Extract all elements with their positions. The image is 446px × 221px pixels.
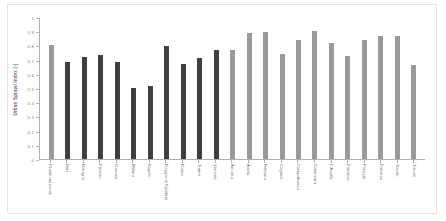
bar [395,36,400,159]
x-tick-slot [108,160,125,163]
x-axis-tick-label: Genova [114,164,119,179]
x-tick-slot [59,160,76,163]
bar-slot [389,18,405,159]
bar-slot [373,18,389,159]
bar-slot [76,18,92,159]
x-tick-slot [174,160,191,163]
x-axis-tick [264,160,265,163]
y-axis-tick-label: 0.2 [28,129,34,134]
x-label-slot: Trento [389,164,406,212]
x-axis-tick [364,160,365,163]
x-label-slot: Bari [59,164,76,212]
x-axis-tick [66,160,67,163]
bar-slot [191,18,207,159]
x-axis-tick-label: Bolzano [262,164,267,180]
x-axis-tick-label: Napoli [147,164,152,176]
x-axis-tick [149,160,150,163]
y-axis-tick-label: 0 [31,158,34,163]
x-label-slot: Venezia [207,164,224,212]
bar-slot [109,18,125,159]
x-axis-tick-label: Bari [64,164,69,172]
x-axis-tick [198,160,199,163]
x-label-slot: Ancona [224,164,241,212]
x-axis-tick [314,160,315,163]
x-tick-slot [42,160,59,163]
y-axis-tick-label: 0.1 [28,143,34,148]
x-axis-tick-label: Firenze [97,164,102,179]
y-axis-tick-label: 0.9 [28,30,34,35]
bar [197,58,202,159]
x-axis-tick [215,160,216,163]
x-tick-slot [240,160,257,163]
bar-slot [224,18,240,159]
x-label-slot: Bolzano [257,164,274,212]
x-axis-tick-label: Roma [180,164,185,176]
bar-slot [59,18,75,159]
x-tick-slot [372,160,389,163]
x-tick-slot [224,160,241,163]
bar-slot [175,18,191,159]
x-axis-tick [231,160,232,163]
x-label-slot: L'Aquila [323,164,340,212]
x-axis-tick-label: Milano [130,164,135,177]
x-axis-tick-label: Venezia [213,164,218,180]
x-label-slot: Aosta [240,164,257,212]
x-tick-slot [405,160,422,163]
x-tick-slot [290,160,307,163]
bar [49,45,54,159]
bar-slot [92,18,108,159]
x-label-slot: Bologna [75,164,92,212]
x-axis-tick [413,160,414,163]
x-label-slot: Firenze [92,164,109,212]
bar [247,33,252,159]
x-label-slot: Provincial mean [42,164,59,212]
x-axis-tick-label: Catanzaro [312,164,317,184]
bar-slot [323,18,339,159]
x-axis-tick [99,160,100,163]
x-axis-tick-label: Reggio di Calabria [163,164,168,200]
x-label-slot: Perugia [356,164,373,212]
x-axis-tick [331,160,332,163]
x-tick-slot [75,160,92,163]
x-tick-slot [323,160,340,163]
x-tick-slot [191,160,208,163]
x-axis-tick [380,160,381,163]
x-tick-slot [92,160,109,163]
bar [280,54,285,159]
x-axis-tick [50,160,51,163]
x-axis-tick-label: Aosta [246,164,251,175]
x-label-slot: Palermo [339,164,356,212]
x-label-slot: Trieste [405,164,422,212]
y-axis-tick-label: 0.3 [28,115,34,120]
bar [98,55,103,159]
y-axis-tick-label: 0.7 [28,58,34,63]
x-tick-slot [257,160,274,163]
x-label-slot: Torino [191,164,208,212]
x-axis-tick-label: Ancona [229,164,234,179]
x-label-slot: Roma [174,164,191,212]
x-axis-tick-label: Bologna [81,164,86,180]
bar-slot [356,18,372,159]
bar [164,46,169,160]
bar [378,36,383,159]
bar [82,57,87,159]
bar-slot [43,18,59,159]
bar-slot [142,18,158,159]
x-axis-tick-label: Torino [196,164,201,176]
bar-series [40,18,425,159]
x-axis-tick [297,160,298,163]
y-axis-tick-label: 0.8 [28,44,34,49]
x-tick-slot [273,160,290,163]
x-axis-tick-label: Trento [395,164,400,177]
x-axis-tick-label: L'Aquila [329,164,334,180]
y-axis-tick-label: 1 [31,16,34,21]
bar-slot [307,18,323,159]
x-label-slot: Campobasso [290,164,307,212]
x-axis-tick-label: Palermo [345,164,350,180]
bar-slot [340,18,356,159]
x-label-slot: Cagliari [273,164,290,212]
x-tick-slot [207,160,224,163]
bar [230,50,235,159]
y-axis-tick-label: 0.6 [28,72,34,77]
x-axis-tick-label: Trieste [411,164,416,177]
